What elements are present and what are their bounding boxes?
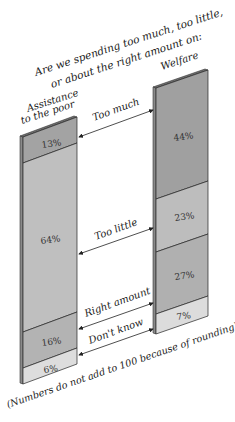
connector-dont-know: Don't know xyxy=(79,316,153,355)
svg-text:Too much: Too much xyxy=(91,96,141,123)
connector-too-little: Too little xyxy=(79,216,153,254)
bar-assistance-to-the-poor: 13% 64% 16% 6% xyxy=(20,116,77,384)
svg-text:Don't know: Don't know xyxy=(86,316,145,346)
bar-welfare: 44% 23% 27% 7% xyxy=(153,69,208,334)
connector-too-much: Too much xyxy=(79,96,153,137)
svg-text:7%: 7% xyxy=(176,310,192,322)
svg-text:Right amount: Right amount xyxy=(82,285,153,320)
svg-text:6%: 6% xyxy=(43,363,59,375)
stacked-bar-chart: Are we spending too much, too little, or… xyxy=(0,0,235,422)
svg-text:Too little: Too little xyxy=(93,216,139,242)
